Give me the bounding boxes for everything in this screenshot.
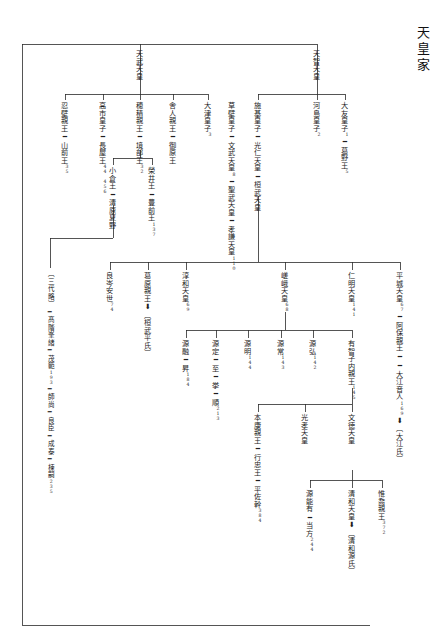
node-ninmyou: 仁明天皇141 (348, 272, 355, 317)
node-sakai-num: 137 (151, 222, 156, 237)
node-minamoto-tooru-num: 184 (185, 372, 190, 387)
node-uchiko: 有智子内親王145 (348, 340, 355, 400)
node-minamoto-yoshiari: 源能有━当方244 (306, 490, 313, 552)
node-tenmu: 天武天皇 (136, 50, 143, 80)
node-saga: 嵯峨天皇68 (281, 272, 288, 312)
node-otsu-num: 3 (207, 132, 212, 137)
node-kouko: 光孝天皇 (301, 414, 308, 444)
node-minamoto-hiromu-num: 142 (312, 355, 317, 370)
arrow-down-icon-2: ⬇ (395, 416, 404, 426)
node-osakabe-num: 35 (64, 164, 69, 174)
node-takashina: 〔三代略〕━髙階峯緒━茂範193━師尚━良臣━成泰━棟嗣235 (46, 270, 53, 494)
arrow-down-icon-3: ⬇ (347, 520, 356, 530)
node-heizei: 平城天皇67━阿保親王━━大江音人169⬇〔大江氏〕 (396, 272, 403, 463)
node-kawashima: 河島皇子2 (313, 102, 320, 137)
node-tenji: 天智天皇 (313, 50, 320, 80)
node-motoyasu: 本康親王━行忠王━平佐幹384 (254, 414, 261, 523)
node-takashina-num: 193 (49, 370, 54, 385)
node-otsu: 大津皇子3 (204, 102, 211, 137)
node-minamoto-yoshiari-num: 244 (309, 537, 314, 552)
node-uchiko-num: 145 (351, 385, 356, 400)
arrow-down-icon: ⬇ (143, 302, 152, 312)
node-takechi: 高市皇子━長屋王44 456 (99, 102, 106, 194)
node-minamoto-tokiwa-num: 143 (280, 355, 285, 370)
node-takechi-num: 44 456 (102, 164, 107, 194)
node-kuzuhara: 葛原親王⬇〔桓武平氏〕 (144, 272, 151, 357)
node-heizei-num: 67 (399, 302, 404, 312)
node-toneri: 舎人親王━御原王 (169, 102, 176, 164)
node-kusakabe: 草壁皇子━文武天皇8━聖武天皇━孝謙天皇110 (228, 102, 235, 271)
node-motoyasu-num: 384 (257, 508, 262, 523)
connector-lines (0, 0, 440, 642)
node-minamoto-akira: 源明144 (244, 340, 251, 370)
node-hozumi-num: 32 (139, 164, 144, 174)
node-hozumi: 穂積親王━境部王32 (136, 102, 143, 174)
node-minamoto-sadamu-num: 213 (215, 406, 220, 421)
node-kawashima-num: 2 (316, 132, 321, 137)
node-ninmyou-num: 141 (351, 302, 356, 317)
node-junna-num: 69 (185, 302, 190, 312)
node-sakai: 榮井王━豊前王137 (148, 167, 155, 237)
node-junna: 淳和天皇69 (182, 272, 189, 312)
node-takashina2-num: 235 (49, 479, 54, 494)
node-minamoto-tooru: 源融━昇184 (182, 340, 189, 387)
node-otomo: 大友皇子1━葛野王5 (341, 102, 348, 174)
node-koretaka-num: 372 (381, 520, 386, 535)
node-yoshimine: 良岑安世74 (106, 272, 113, 312)
node-osakabe: 忍壁親王━山前王35 (61, 102, 68, 174)
node-minamoto-hiromu: 源弘142 (309, 340, 316, 370)
page-title: 天皇家 (413, 26, 432, 74)
node-saga-num: 68 (284, 302, 289, 312)
node-minamoto-sadamu: 源定━至━挙━順213 (212, 340, 219, 421)
node-abo-num: 169 (399, 401, 404, 416)
node-ogura: 小倉王━清原夏野 (109, 167, 116, 229)
node-shiki: 施基皇子━光仁天皇━桓武天皇 (254, 102, 261, 211)
node-montoku: 文徳天皇 (348, 414, 355, 444)
node-shoumu-num: 110 (231, 256, 236, 271)
genealogy-chart: 天皇家 天武天皇 天智天皇 忍壁親王━山前王35 高市皇子━長屋王44 456 … (0, 0, 440, 642)
node-koretaka: 惟喬親王372 (378, 490, 385, 535)
node-yoshimine-num: 74 (109, 302, 114, 312)
node-seiwa: 清和天皇⬇〔清和源氏〕 (348, 490, 355, 575)
node-kadono-num: 5 (344, 169, 349, 174)
node-minamoto-tokiwa: 源常143 (277, 340, 284, 370)
node-minamoto-akira-num: 144 (247, 355, 252, 370)
